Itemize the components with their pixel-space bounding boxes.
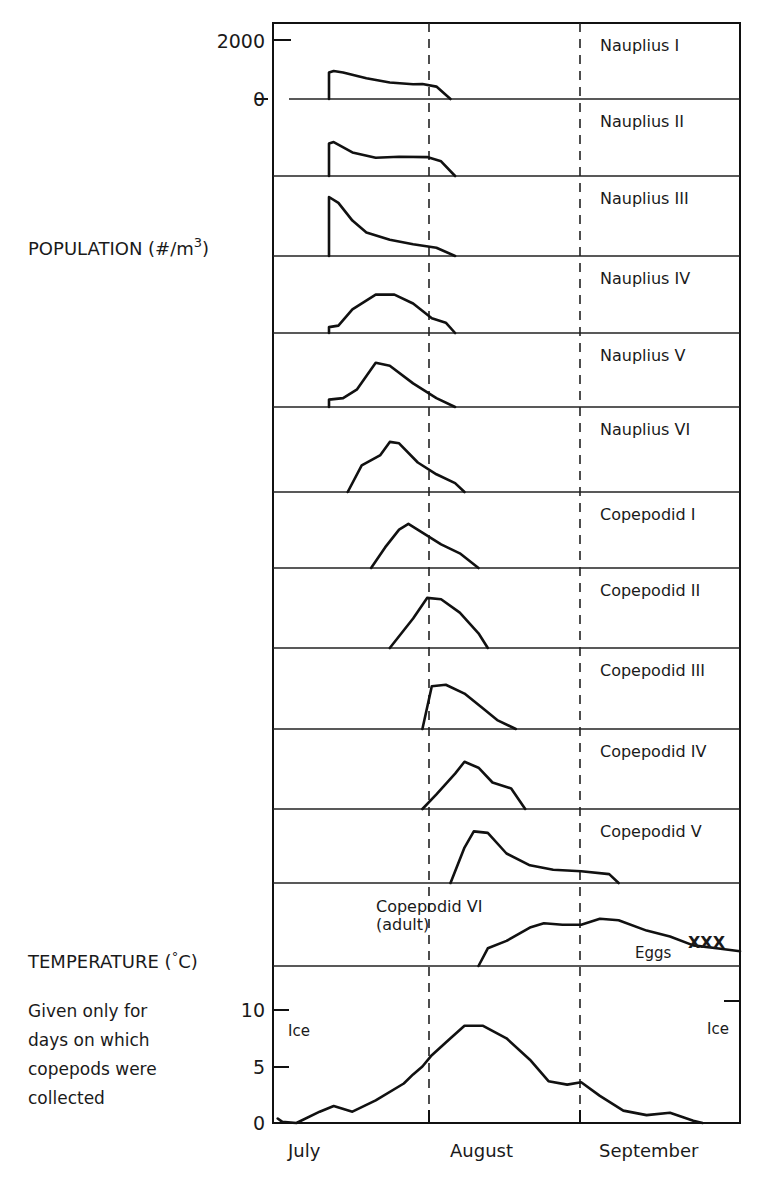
ice-label-end: Ice	[707, 1020, 729, 1038]
panel-copepodid-ii: Copepodid II	[273, 581, 740, 648]
temperature-curve	[278, 1026, 703, 1123]
tick-label-2000: 2000	[217, 30, 265, 52]
temperature-label-suffix: C)	[178, 951, 198, 972]
population-label-suffix: )	[202, 238, 209, 259]
stage-label: Copepodid I	[600, 505, 695, 524]
population-curve	[451, 831, 619, 883]
tick-label-temp-5: 5	[253, 1056, 265, 1078]
stage-label: Nauplius III	[600, 189, 689, 208]
population-curve	[422, 685, 515, 729]
stage-label: Copepodid IV	[600, 742, 706, 761]
population-panels: Nauplius INauplius IINauplius IIINaupliu…	[273, 36, 740, 966]
stage-label: Nauplius II	[600, 112, 684, 131]
population-curve	[329, 197, 455, 256]
temperature-label-text: TEMPERATURE (	[27, 951, 172, 972]
population-curve	[422, 762, 525, 809]
population-curve	[329, 363, 455, 407]
stage-label: Nauplius VI	[600, 420, 690, 439]
stage-label: Nauplius IV	[600, 269, 690, 288]
month-label-september: September	[599, 1140, 699, 1161]
eggs-annotation: Eggs	[635, 944, 672, 962]
tick-label-temp-10: 10	[241, 999, 265, 1021]
population-curve	[329, 295, 455, 333]
tick-label-0-pop: 0	[253, 88, 265, 110]
temperature-note-line-3: copepods were	[28, 1059, 157, 1079]
temperature-note-line-2: days on which	[28, 1030, 150, 1050]
temperature-panel: IceIce	[278, 1020, 729, 1123]
population-label-superscript: 3	[194, 235, 202, 250]
egg-markers: XXX	[688, 933, 726, 952]
stage-label: Nauplius V	[600, 346, 686, 365]
population-curve	[329, 71, 451, 99]
stage-label: Copepodid VI(adult)	[376, 897, 482, 934]
population-curve	[390, 598, 488, 648]
population-curve	[329, 142, 455, 176]
stage-label: Copepodid II	[600, 581, 700, 600]
panel-nauplius-v: Nauplius V	[273, 346, 740, 407]
panel-nauplius-vi: Nauplius VI	[273, 420, 740, 492]
panel-nauplius-ii: Nauplius II	[273, 112, 740, 176]
stage-label: Nauplius I	[600, 36, 679, 55]
tick-label-temp-0: 0	[253, 1112, 265, 1134]
population-label-text: POPULATION (#/m	[28, 238, 194, 259]
population-curve	[371, 524, 478, 568]
panel-copepodid-i: Copepodid I	[273, 505, 740, 568]
population-curve	[348, 442, 465, 492]
month-label-august: August	[450, 1140, 513, 1161]
month-label-july: July	[287, 1140, 321, 1161]
panel-copepodid-vi-adult: EggsXXXCopepodid VI(adult)	[273, 897, 740, 966]
copepod-population-chart: Nauplius INauplius IINauplius IIINaupliu…	[0, 0, 763, 1180]
temperature-note-line-1: Given only for	[28, 1001, 147, 1021]
panel-copepodid-iv: Copepodid IV	[273, 742, 740, 809]
panel-nauplius-iv: Nauplius IV	[273, 269, 740, 333]
panel-copepodid-iii: Copepodid III	[273, 661, 740, 729]
population-axis-label: POPULATION (#/m3)	[28, 235, 209, 259]
stage-label: Copepodid III	[600, 661, 705, 680]
panel-nauplius-iii: Nauplius III	[273, 189, 740, 256]
stage-label: Copepodid V	[600, 822, 702, 841]
panel-copepodid-v: Copepodid V	[273, 822, 740, 883]
temperature-note-line-4: collected	[28, 1088, 105, 1108]
temperature-axis-label: TEMPERATURE (°C)	[27, 949, 198, 972]
panel-nauplius-i: Nauplius I	[289, 36, 740, 99]
ice-label-start: Ice	[288, 1022, 310, 1040]
